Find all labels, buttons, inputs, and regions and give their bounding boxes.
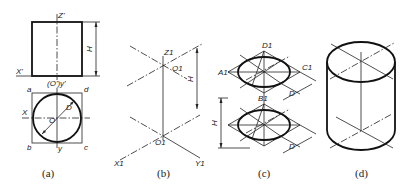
label-origin-front: (O')y' [47, 79, 66, 88]
top-axis-1 [331, 44, 393, 79]
d-ext-top-2 [300, 72, 316, 81]
label-diameter: D [66, 103, 72, 112]
label-y1: Y1 [195, 159, 205, 168]
label-o1-top: O1 [172, 64, 183, 73]
label-b: b [27, 143, 32, 152]
label-y: y [57, 144, 63, 153]
d-dimension-bottom [283, 137, 312, 153]
label-h: H [186, 76, 195, 82]
label-d-top: D [289, 89, 295, 98]
label-a: a [27, 85, 32, 94]
label-h: H [210, 120, 219, 126]
arrow-icon [220, 98, 223, 103]
label-o1-bottom: O1 [155, 138, 166, 147]
bottom-axis-back-1 [130, 117, 163, 136]
label-a1: A1 [217, 68, 228, 77]
caption-d: (d) [355, 167, 368, 180]
caption-b: (b) [157, 167, 170, 180]
label-c: c [84, 143, 88, 152]
top-axis-dash [246, 56, 290, 80]
bottom-construction-line-2 [252, 104, 264, 139]
label-d1: D1 [262, 41, 272, 50]
panel-b: Z1 O1 H O1 X1 Y1 (b) [113, 44, 205, 180]
y1-axis [163, 136, 200, 158]
label-c1: C1 [302, 63, 312, 72]
bottom-axis-1 [336, 117, 393, 148]
d-dimension-top [283, 84, 312, 100]
label-x: X [21, 108, 28, 117]
d-ext-bottom-2 [300, 125, 316, 134]
arrow-icon [95, 71, 98, 76]
top-construction-line-3 [240, 60, 282, 88]
arrow-icon [196, 48, 199, 53]
arrow-icon [95, 22, 98, 27]
caption-a: (a) [42, 167, 55, 180]
label-b1: B1 [258, 94, 268, 103]
cylinder-bottom-arc [327, 130, 395, 150]
label-d-bottom: D [289, 142, 295, 151]
arrow-icon [220, 143, 223, 148]
top-axis-1 [130, 46, 187, 79]
bottom-axis-dash [246, 109, 290, 133]
cylinder-isometric-diagram: Z' X' (O')y' H a d b c X O y D (a) [0, 0, 408, 189]
label-x-prime: X' [15, 67, 23, 76]
panel-d: (d) [327, 42, 395, 180]
bottom-construction-line-3 [240, 113, 282, 141]
top-construction-line-2 [252, 51, 264, 86]
label-x1: X1 [113, 159, 124, 168]
panel-a: Z' X' (O')y' H a d b c X O y D (a) [15, 11, 100, 180]
label-h: H [85, 46, 94, 52]
label-o: O [49, 116, 55, 125]
panel-c: D D H D1 A1 C1 B1 (c) [210, 41, 316, 180]
arrow-icon [196, 104, 199, 109]
label-z1: Z1 [163, 48, 173, 57]
caption-c: (c) [258, 167, 271, 180]
label-z-prime: Z' [57, 11, 65, 20]
bottom-axis-back-2 [163, 115, 200, 136]
label-d: d [84, 85, 89, 94]
